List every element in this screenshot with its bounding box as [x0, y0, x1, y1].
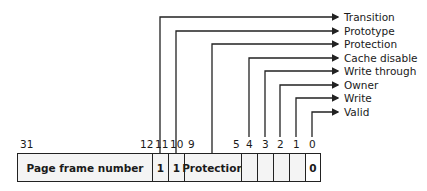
- callout-owner: Owner: [344, 79, 378, 91]
- field-bit-2: [273, 153, 290, 182]
- bit-number-10: 10: [170, 138, 183, 150]
- write-through-line: [265, 71, 338, 137]
- prototype-line: [176, 31, 338, 153]
- bit-number-2: 2: [277, 138, 284, 150]
- valid-line: [312, 112, 338, 137]
- field-page-frame-number: Page frame number: [17, 153, 153, 182]
- callout-cache-disable: Cache disable: [344, 52, 418, 64]
- field-bit-11: 1: [152, 153, 169, 182]
- callout-prototype: Prototype: [344, 25, 395, 37]
- callout-transition: Transition: [344, 11, 395, 23]
- bit-number-5: 5: [233, 138, 240, 150]
- bit-number-11: 11: [155, 138, 168, 150]
- field-bit-4: [241, 153, 258, 182]
- bit-number-31: 31: [20, 138, 33, 150]
- bit-number-12: 12: [140, 138, 153, 150]
- bit-number-4: 4: [246, 138, 253, 150]
- write-line: [296, 98, 338, 137]
- field-bit-0: 0: [305, 153, 321, 182]
- bit-number-3: 3: [262, 138, 269, 150]
- callout-write-through: Write through: [344, 65, 416, 77]
- field-protection: Protection: [184, 153, 242, 182]
- bit-number-1: 1: [293, 138, 300, 150]
- field-bit-1: [289, 153, 306, 182]
- owner-line: [280, 85, 338, 137]
- bit-number-0: 0: [309, 138, 316, 150]
- callout-valid: Valid: [344, 106, 369, 118]
- bit-number-9: 9: [188, 138, 195, 150]
- callout-write: Write: [344, 92, 372, 104]
- callout-protection: Protection: [344, 38, 397, 50]
- field-bit-3: [257, 153, 274, 182]
